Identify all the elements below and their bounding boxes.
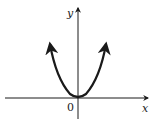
origin-label: 0: [67, 101, 74, 114]
parabola-diagram: y x 0: [0, 0, 153, 119]
y-axis-label: y: [66, 7, 74, 20]
x-axis-label: x: [142, 102, 149, 115]
